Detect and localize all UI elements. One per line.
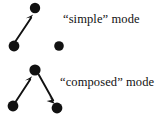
node-simple-top — [30, 3, 40, 13]
edge-simple-left-to-top — [15, 15, 33, 43]
node-composed-target — [52, 103, 63, 114]
figure-two-modes-diagram: “simple” mode “composed” mode — [0, 0, 158, 122]
edge-composed-left-to-top — [16, 76, 33, 102]
edge-line — [39, 75, 53, 101]
simple-mode-label: “simple” mode — [63, 13, 140, 26]
composed-mode-label: “composed” mode — [60, 76, 154, 89]
node-simple-source — [9, 41, 20, 52]
edge-composed-top-to-right — [39, 75, 55, 104]
node-simple-isolated — [54, 41, 64, 51]
panel-simple — [9, 3, 64, 52]
node-composed-source — [8, 101, 19, 112]
panel-composed — [8, 64, 63, 113]
edge-line — [16, 80, 31, 103]
node-composed-top — [29, 64, 40, 75]
